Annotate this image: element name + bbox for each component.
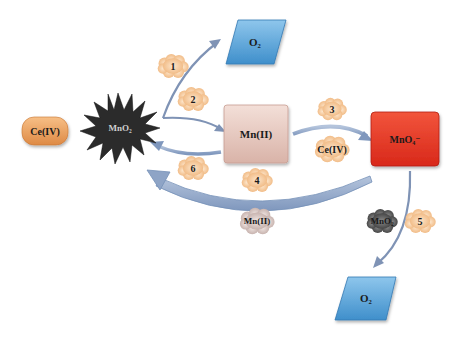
step-3-label: 3 <box>316 96 348 122</box>
step-5-label: 5 <box>403 207 437 235</box>
node-ce-iv-label: Ce(IV) <box>22 117 68 145</box>
reagent-mn-ii-label: Mn(II) <box>238 206 276 236</box>
step-6-label: 6 <box>176 154 210 182</box>
node-o2-bottom-label: O₂ <box>340 288 392 308</box>
reagent-mno2-label: MnO₂ <box>365 207 399 235</box>
arrow-step-6 <box>150 141 221 154</box>
step-4-label: 4 <box>240 166 274 194</box>
step-2-label: 2 <box>176 86 210 112</box>
step-1-label: 1 <box>156 52 190 80</box>
node-mno2-label: MnO₂ <box>100 118 140 138</box>
arrow-step-2 <box>163 118 226 132</box>
reagent-ce-iv-label: Ce(IV) <box>313 134 351 164</box>
node-mno4-label: MnO₄⁻ <box>371 129 439 149</box>
node-mn-ii-label: Mn(II) <box>224 124 288 144</box>
node-o2-top-label: O₂ <box>230 32 280 52</box>
